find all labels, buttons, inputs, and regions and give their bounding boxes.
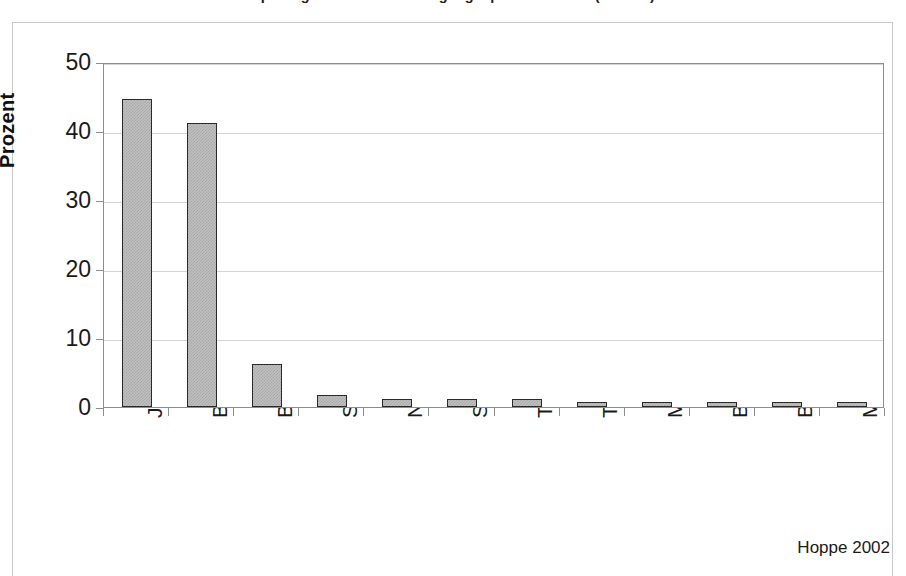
x-axis-tick-mark	[363, 408, 364, 416]
bar	[772, 402, 802, 407]
gridline	[104, 202, 883, 203]
y-axis-tick-label: 20	[45, 258, 91, 281]
plot-area	[103, 63, 884, 408]
y-axis-title: Prozent	[0, 93, 19, 168]
bar	[317, 395, 347, 407]
bar	[837, 402, 867, 407]
y-axis-tick-mark	[96, 132, 103, 133]
bar	[512, 399, 542, 407]
x-axis-tick-mark	[428, 408, 429, 416]
y-axis-tick-mark	[96, 339, 103, 340]
chart-screenshot: Sprachgebrauch in der Umgangssprache in …	[0, 0, 906, 576]
bar	[447, 399, 477, 407]
y-axis-tick-label: 10	[45, 327, 91, 350]
y-axis-tick-mark	[96, 408, 103, 409]
bar	[382, 399, 412, 407]
x-axis-tick-mark	[494, 408, 495, 416]
x-axis-tick-mark	[103, 408, 104, 416]
gridline	[104, 64, 883, 65]
x-axis-tick-mark	[819, 408, 820, 416]
y-axis-tick-mark	[96, 201, 103, 202]
x-axis-tick-mark	[559, 408, 560, 416]
x-axis-tick-mark	[689, 408, 690, 416]
x-axis-tick-mark	[298, 408, 299, 416]
bar	[122, 99, 152, 407]
bar	[252, 364, 282, 407]
x-axis-tick-mark	[168, 408, 169, 416]
y-axis-tick-label: 0	[45, 396, 91, 419]
bar	[187, 123, 217, 407]
bar	[577, 402, 607, 407]
y-axis-tick-mark	[96, 270, 103, 271]
bar	[642, 402, 672, 407]
x-axis-tick-mark	[233, 408, 234, 416]
y-axis-tick-label: 50	[45, 51, 91, 74]
gridline	[104, 340, 883, 341]
source-note: Hoppe 2002	[797, 538, 890, 558]
y-axis-tick-label: 30	[45, 189, 91, 212]
gridline	[104, 271, 883, 272]
bar	[707, 402, 737, 407]
y-axis-tick-mark	[96, 63, 103, 64]
gridline	[104, 133, 883, 134]
x-axis-tick-mark	[624, 408, 625, 416]
x-axis-tick-mark	[884, 408, 885, 416]
y-axis-tick-label: 40	[45, 120, 91, 143]
chart-title: Sprachgebrauch in der Umgangssprache in …	[0, 0, 906, 5]
x-axis-tick-mark	[754, 408, 755, 416]
